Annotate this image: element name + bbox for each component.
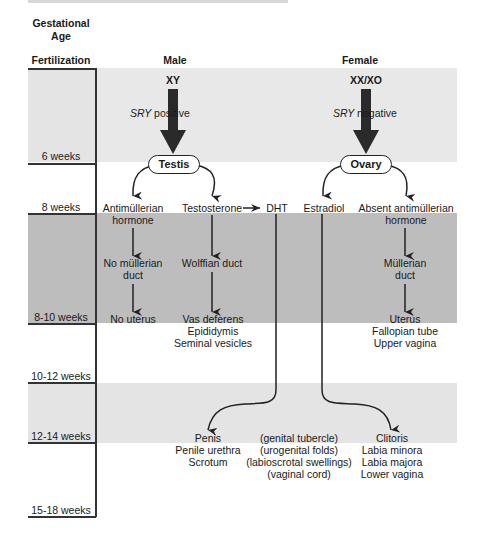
estradiol: Estradiol — [302, 202, 346, 214]
uterus: Uterus — [362, 313, 448, 325]
no-mullerian-line1: No müllerian — [98, 257, 168, 269]
no-mullerian-line2: duct — [98, 269, 168, 281]
sry-gene-label: SRY — [130, 107, 151, 119]
mullerian-line2: duct — [372, 269, 438, 281]
female-big-arrow — [353, 89, 379, 154]
penile-urethra: Penile urethra — [170, 444, 246, 456]
penis: Penis — [170, 432, 246, 444]
male-sry-status: SRY positive — [130, 107, 220, 119]
absent-amh-line2: hormone — [358, 214, 454, 226]
fallopian-tube: Fallopian tube — [362, 325, 448, 337]
male-big-arrow — [160, 89, 186, 154]
absent-antimullerian-hormone: Absent antimüllerian hormone — [358, 202, 454, 226]
amh-line2: hormone — [98, 214, 168, 226]
labia-majora: Labia majora — [356, 456, 428, 468]
female-sry-status: SRY negative — [333, 107, 433, 119]
vaginal-cord: (vaginal cord) — [244, 468, 354, 480]
male-karyotype: XY — [158, 74, 188, 86]
no-mullerian-duct: No müllerian duct — [98, 257, 168, 281]
sry-positive-label: positive — [151, 107, 190, 119]
mullerian-line1: Müllerian — [372, 257, 438, 269]
no-uterus: No uterus — [98, 313, 168, 325]
sry-negative-label: negative — [354, 107, 397, 119]
seminal-vesicles: Seminal vesicles — [170, 337, 256, 349]
dht: DHT — [262, 202, 292, 214]
labia-minora: Labia minora — [356, 444, 428, 456]
testis-node: Testis — [148, 155, 200, 174]
mullerian-products: Uterus Fallopian tube Upper vagina — [362, 313, 448, 349]
precursor-structures: (genital tubercle) (urogenital folds) (l… — [244, 432, 354, 480]
male-external-genitalia: Penis Penile urethra Scrotum — [170, 432, 246, 468]
female-external-genitalia: Clitoris Labia minora Labia majora Lower… — [356, 432, 428, 480]
genital-tubercle: (genital tubercle) — [244, 432, 354, 444]
wolffian-duct: Wolffian duct — [176, 257, 248, 269]
ovary-node: Ovary — [340, 155, 392, 174]
vas-deferens: Vas deferens — [170, 313, 256, 325]
female-karyotype: XX/XO — [343, 74, 389, 86]
mullerian-duct: Müllerian duct — [372, 257, 438, 281]
urogenital-folds: (urogenital folds) — [244, 444, 354, 456]
clitoris: Clitoris — [356, 432, 428, 444]
scrotum: Scrotum — [170, 456, 246, 468]
wolffian-products: Vas deferens Epididymis Seminal vesicles — [170, 313, 256, 349]
epididymis: Epididymis — [170, 325, 256, 337]
testosterone: Testosterone — [180, 202, 244, 214]
amh-line1: Antimüllerian — [98, 202, 168, 214]
antimullerian-hormone: Antimüllerian hormone — [98, 202, 168, 226]
lower-vagina: Lower vagina — [356, 468, 428, 480]
sry-gene-label-female: SRY — [333, 107, 354, 119]
labioscrotal-swellings: (labioscrotal swellings) — [244, 456, 354, 468]
upper-vagina: Upper vagina — [362, 337, 448, 349]
absent-amh-line1: Absent antimüllerian — [358, 202, 454, 214]
